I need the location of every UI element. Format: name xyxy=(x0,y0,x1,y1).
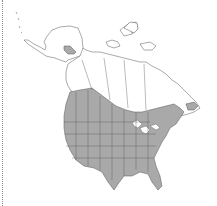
range-map-frame xyxy=(0,0,217,206)
aleutian-islands xyxy=(16,12,22,33)
north-america-map xyxy=(0,0,217,206)
alaska xyxy=(24,26,85,62)
